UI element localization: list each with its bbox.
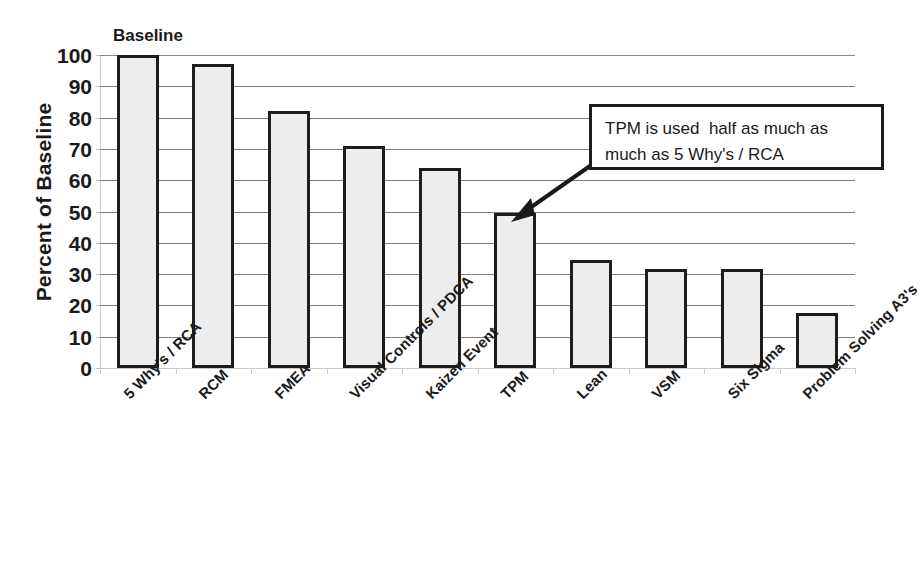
x-category-label-5: TPM bbox=[497, 367, 532, 402]
x-category-label-0: 5 Why's / RCA bbox=[120, 318, 204, 402]
annotation-line-2: much as 5 Why's / RCA bbox=[605, 142, 869, 168]
tpm-annotation-callout: TPM is used half as much as much as 5 Wh… bbox=[589, 104, 884, 170]
annotation-line-1: TPM is used half as much as bbox=[605, 116, 869, 142]
x-category-label-9: Problem Solving A3's bbox=[799, 280, 921, 402]
x-category-label-1: RCM bbox=[195, 366, 231, 402]
x-category-label-2: FMEA bbox=[271, 360, 313, 402]
x-category-label-3: Visual Controls / PDCA bbox=[346, 272, 476, 402]
x-category-label-4: Kaizen Event bbox=[422, 323, 501, 402]
x-category-label-8: Six Sigma bbox=[724, 339, 787, 402]
x-category-label-6: Lean bbox=[573, 365, 610, 402]
x-category-label-7: VSM bbox=[648, 367, 683, 402]
